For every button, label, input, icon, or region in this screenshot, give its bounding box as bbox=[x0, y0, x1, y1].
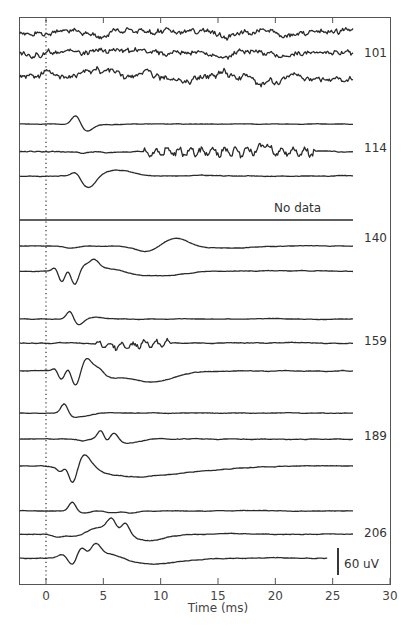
group-label: 114 bbox=[364, 141, 387, 155]
x-tick-label: 0 bbox=[42, 589, 50, 603]
group-label: No data bbox=[274, 201, 321, 215]
group-label: 101 bbox=[364, 46, 387, 60]
x-tick-label: 10 bbox=[153, 589, 168, 603]
trace-1 bbox=[20, 312, 353, 325]
trace-2 bbox=[20, 518, 353, 541]
evoked-potential-chart: 051015202530 101114No data140159189206 6… bbox=[0, 0, 409, 629]
trace-3 bbox=[20, 455, 353, 483]
group-label: 206 bbox=[364, 526, 387, 540]
x-tick-label: 20 bbox=[268, 589, 283, 603]
trace-group-189 bbox=[20, 404, 353, 482]
trace-group-159 bbox=[20, 312, 353, 385]
trace-2 bbox=[20, 48, 353, 59]
trace-2 bbox=[20, 143, 353, 157]
trace-group-140 bbox=[20, 238, 353, 284]
group-label: 189 bbox=[364, 429, 387, 443]
plot-frame bbox=[20, 18, 391, 585]
trace-1 bbox=[20, 502, 353, 513]
trace-group-114 bbox=[20, 116, 353, 188]
trace-3 bbox=[20, 170, 353, 188]
group-label: 140 bbox=[364, 231, 387, 245]
trace-group-101 bbox=[20, 28, 353, 87]
trace-groups bbox=[20, 28, 353, 565]
scale-bar-label: 60 uV bbox=[344, 557, 380, 571]
trace-2 bbox=[20, 338, 353, 350]
trace-3 bbox=[20, 544, 328, 565]
trace-2 bbox=[20, 431, 353, 444]
x-tick-label: 5 bbox=[100, 589, 108, 603]
x-tick-label: 25 bbox=[325, 589, 340, 603]
trace-1 bbox=[20, 404, 353, 417]
trace-3 bbox=[20, 359, 353, 385]
trace-1 bbox=[20, 238, 353, 251]
trace-3 bbox=[20, 67, 353, 87]
trace-group-206 bbox=[20, 502, 353, 564]
group-label: 159 bbox=[364, 334, 387, 348]
x-axis-bottom-ticks bbox=[46, 578, 390, 584]
trace-1 bbox=[20, 28, 353, 40]
trace-2 bbox=[20, 259, 353, 284]
x-axis-label: Time (ms) bbox=[187, 601, 249, 615]
x-tick-label: 30 bbox=[382, 589, 397, 603]
trace-1 bbox=[20, 116, 353, 131]
